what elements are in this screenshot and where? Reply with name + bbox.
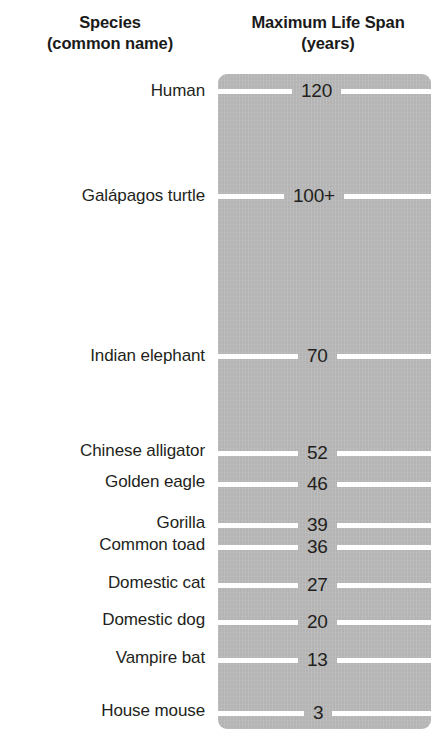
species-label: Golden eagle — [5, 469, 205, 495]
species-label: Domestic cat — [5, 570, 205, 596]
tick-line-left — [218, 583, 298, 588]
lifespan-value: 27 — [298, 572, 337, 598]
tick-line-right — [337, 620, 431, 625]
tick-line-right — [337, 545, 431, 550]
tick-line-right — [337, 451, 431, 456]
lifespan-tick-row: 13 — [218, 647, 431, 673]
tick-line-right — [332, 711, 431, 716]
lifespan-tick-row: 100+ — [218, 183, 431, 209]
lifespan-value: 3 — [304, 700, 332, 726]
lifespan-value: 52 — [298, 440, 337, 466]
tick-line-left — [218, 194, 284, 199]
species-label: Indian elephant — [5, 343, 205, 369]
lifespan-tick-row: 70 — [218, 343, 431, 369]
tick-line-left — [218, 451, 298, 456]
column-header-lifespan: Maximum Life Span (years) — [222, 12, 434, 54]
species-label: Vampire bat — [5, 645, 205, 671]
tick-line-left — [218, 89, 292, 94]
tick-line-left — [218, 711, 304, 716]
tick-line-right — [341, 89, 431, 94]
column-header-lifespan-line2: (years) — [222, 33, 434, 54]
lifespan-chart-page: Species (common name) Maximum Life Span … — [0, 0, 441, 747]
lifespan-value: 100+ — [284, 183, 344, 209]
lifespan-tick-row: 120 — [218, 78, 431, 104]
tick-line-left — [218, 523, 298, 528]
lifespan-tick-row: 36 — [218, 534, 431, 560]
lifespan-tick-row: 46 — [218, 471, 431, 497]
species-label: House mouse — [5, 698, 205, 724]
species-label: Human — [5, 78, 205, 104]
tick-line-right — [337, 482, 431, 487]
lifespan-value: 70 — [298, 343, 337, 369]
tick-line-left — [218, 620, 298, 625]
tick-line-right — [337, 523, 431, 528]
species-label: Galápagos turtle — [5, 183, 205, 209]
lifespan-value: 120 — [292, 78, 341, 104]
lifespan-value: 36 — [298, 534, 337, 560]
column-header-lifespan-line1: Maximum Life Span — [251, 13, 404, 31]
lifespan-tick-row: 27 — [218, 572, 431, 598]
column-header-species-line2: (common name) — [10, 33, 210, 54]
tick-line-left — [218, 482, 298, 487]
lifespan-value: 46 — [298, 471, 337, 497]
tick-line-right — [337, 583, 431, 588]
lifespan-value: 20 — [298, 609, 337, 635]
tick-line-left — [218, 658, 298, 663]
column-header-species: Species (common name) — [10, 12, 210, 54]
species-label: Common toad — [5, 532, 205, 558]
tick-line-right — [337, 354, 431, 359]
tick-line-left — [218, 545, 298, 550]
lifespan-tick-row: 20 — [218, 609, 431, 635]
lifespan-tick-row: 52 — [218, 440, 431, 466]
tick-line-right — [344, 194, 431, 199]
tick-line-right — [337, 658, 431, 663]
column-header-species-line1: Species — [79, 13, 141, 31]
tick-line-left — [218, 354, 298, 359]
species-label: Chinese alligator — [5, 438, 205, 464]
lifespan-tick-row: 3 — [218, 700, 431, 726]
species-label: Domestic dog — [5, 607, 205, 633]
lifespan-scale-panel: 120100+70524639362720133 — [218, 74, 431, 729]
lifespan-value: 13 — [298, 647, 337, 673]
